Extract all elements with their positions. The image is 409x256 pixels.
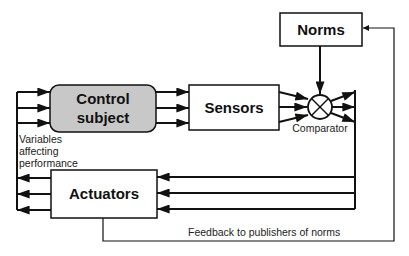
variables-label: Variables affecting performance xyxy=(19,133,78,169)
variables-label-1: Variables xyxy=(19,133,62,145)
variables-label-3: performance xyxy=(19,157,78,169)
arrows-variables-to-control-subject xyxy=(17,92,50,123)
sensors-label: Sensors xyxy=(204,99,263,116)
norms-node: Norms xyxy=(280,13,362,46)
control-loop-diagram: Control subject Sensors Norms Comparator xyxy=(0,0,409,256)
sensors-node: Sensors xyxy=(189,85,279,130)
arrows-actuators-to-variables xyxy=(17,178,51,210)
comparator-label: Comparator xyxy=(292,122,348,134)
arrows-sensors-to-comparator xyxy=(279,92,308,122)
variables-label-2: affecting xyxy=(19,145,59,157)
actuators-node: Actuators xyxy=(51,170,157,218)
feedback-label: Feedback to publishers of norms xyxy=(188,226,340,238)
control-subject-label-2: subject xyxy=(77,109,130,126)
control-subject-node: Control subject xyxy=(50,85,156,132)
norms-label: Norms xyxy=(297,21,345,38)
control-subject-label-1: Control xyxy=(76,90,129,107)
comparator-node: Comparator xyxy=(292,95,348,134)
arrows-comparator-outputs xyxy=(331,92,355,122)
arrows-control-subject-to-sensors xyxy=(156,92,189,123)
actuators-label: Actuators xyxy=(69,185,139,202)
